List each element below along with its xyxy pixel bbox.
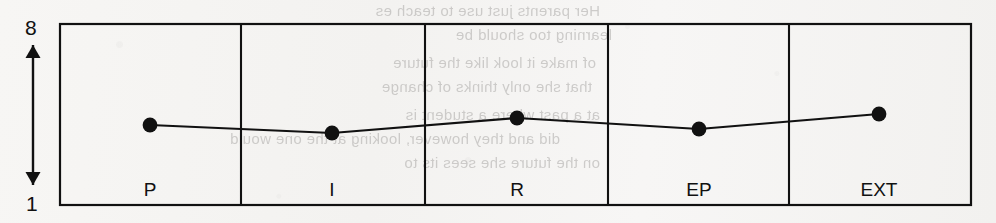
y-axis-arrow [26, 45, 41, 185]
category-label-ext: EXT [861, 180, 898, 199]
scanned-chart-page: Her parents just use to teach eslearning… [0, 0, 996, 223]
category-label-ep: EP [686, 180, 711, 199]
data-point-marker-ep [692, 122, 707, 137]
data-point-marker-ext [872, 107, 887, 122]
category-label-r: R [510, 180, 524, 199]
y-axis-arrowhead-up [26, 45, 41, 58]
category-label-i: I [329, 180, 334, 199]
y-axis-top-value: 8 [25, 17, 37, 38]
data-point-marker-i [325, 126, 340, 141]
category-label-p: P [144, 180, 157, 199]
y-axis-arrowhead-down [26, 172, 41, 185]
data-point-marker-r [510, 111, 525, 126]
y-axis-bottom-value: 1 [26, 193, 38, 214]
data-point-marker-p [143, 118, 158, 133]
